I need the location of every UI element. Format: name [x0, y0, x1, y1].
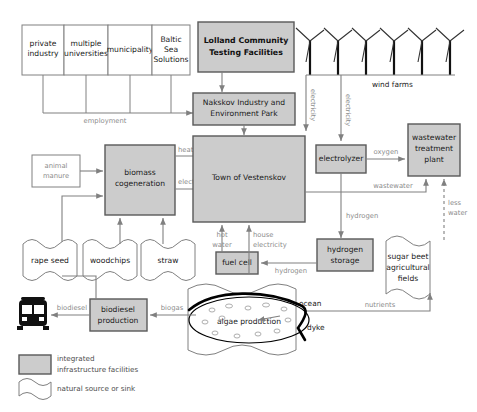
- stakeholder-label-private-industry-1: private: [30, 39, 57, 48]
- legend: integrated infrastructure facilities nat…: [19, 354, 138, 400]
- node-label-biodiesel-2: production: [98, 316, 139, 325]
- stakeholder-label-private-industry-2: industry: [27, 49, 59, 58]
- node-label-biomass-1: biomass: [124, 168, 156, 177]
- flow-electricity-wind-1: electricity: [306, 75, 317, 131]
- node-label-wind-farms: wind farms: [372, 80, 413, 89]
- node-lolland-community-testing-facilities[interactable]: [198, 22, 294, 72]
- flow-label-electricity-wind-2: electricity: [344, 94, 352, 126]
- node-label-straw: straw: [158, 256, 179, 265]
- node-rape-seed[interactable]: rape seed: [23, 240, 77, 281]
- node-biodiesel-production[interactable]: [90, 299, 147, 331]
- flow-wastewater: wastewater: [305, 179, 426, 192]
- flow-label-house-electricity-2: electricity: [253, 241, 287, 249]
- node-straw[interactable]: straw: [141, 240, 195, 281]
- node-label-fuel-cell: fuel cell: [222, 258, 252, 267]
- stakeholder-label-baltic-1: Baltic: [160, 35, 181, 44]
- flow-label-wastewater: wastewater: [373, 182, 413, 190]
- flow-label-house-electricity-1: house: [253, 231, 274, 239]
- node-label-electrolyzer: electrolyzer: [319, 154, 364, 163]
- legend-label-integrated-1: integrated: [57, 354, 95, 363]
- node-label-hydrogen-storage-1: hydrogen: [327, 245, 363, 254]
- node-label-algae-production: algae production: [217, 317, 281, 326]
- node-label-rape-seed: rape seed: [31, 256, 69, 265]
- flow-label-electricity-wind-1: electricity: [309, 89, 317, 121]
- node-label-animal-manure-2: manure: [43, 172, 69, 180]
- node-label-lolland-1: Lolland Community: [204, 36, 289, 45]
- node-sugar-beet-fields[interactable]: sugar beet agricultural fields: [386, 236, 430, 299]
- node-label-sugar-beet-3: fields: [398, 274, 418, 283]
- node-label-animal-manure-1: animal: [44, 162, 67, 170]
- wind-turbine-icon-1: [296, 28, 324, 75]
- stakeholder-label-universities-2: universities: [64, 49, 108, 58]
- flow-oxygen: oxygen: [366, 148, 405, 159]
- node-label-nakskov-2: Environment Park: [210, 109, 278, 118]
- node-wind-farms[interactable]: wind farms: [296, 28, 464, 89]
- legend-swatch-integrated: [19, 355, 51, 374]
- node-label-lolland-2: Testing Facilities: [209, 48, 283, 57]
- flow-label-oxygen: oxygen: [374, 148, 399, 156]
- legend-label-natural: natural source or sink: [57, 384, 136, 393]
- stakeholder-label-baltic-2: Sea: [164, 45, 178, 54]
- flow-hydrogen-fuelcell: hydrogen: [261, 263, 317, 275]
- flow-label-hot-water-1: hot: [216, 231, 227, 239]
- legend-swatch-natural: [19, 379, 51, 400]
- flow-biodiesel-out: biodiesel: [51, 304, 90, 315]
- node-label-sugar-beet-1: sugar beet: [388, 252, 429, 261]
- flow-label-less-water-2: water: [448, 209, 468, 217]
- node-label-wastewater-2: treatment: [415, 144, 453, 153]
- stakeholder-label-universities-1: multiple: [70, 39, 101, 48]
- node-hydrogen-storage[interactable]: [317, 239, 373, 271]
- flow-label-heat: heat: [178, 146, 194, 154]
- node-label-biomass-2: cogeneration: [115, 179, 165, 188]
- node-label-hydrogen-storage-2: storage: [331, 256, 360, 265]
- node-label-nakskov-1: Nakskov Industry and: [203, 98, 285, 107]
- node-label-town: Town of Vestenskov: [211, 173, 287, 182]
- wind-turbine-icon-2: [324, 28, 352, 75]
- flow-label-hydrogen-fuelcell: hydrogen: [275, 267, 307, 275]
- node-woodchips[interactable]: woodchips: [83, 240, 137, 281]
- flow-label-nutrients: nutrients: [365, 301, 396, 309]
- node-label-dyke: dyke: [307, 323, 325, 332]
- flow-label-biodiesel: biodiesel: [57, 304, 87, 312]
- infrastructure-flow-diagram: private industry multiple universities m…: [0, 0, 477, 412]
- legend-label-integrated-2: infrastructure facilities: [57, 365, 138, 374]
- stakeholder-group: private industry multiple universities m…: [22, 25, 190, 75]
- flow-label-hot-water-2: water: [212, 241, 232, 249]
- wind-turbine-icon-3: [352, 28, 380, 75]
- wind-turbine-icon-5: [408, 28, 436, 75]
- node-label-wastewater-3: plant: [424, 155, 443, 164]
- node-label-biodiesel-1: biodiesel: [101, 305, 135, 314]
- stakeholder-label-baltic-3: Solutions: [154, 55, 189, 64]
- flow-label-employment: employment: [84, 117, 127, 125]
- node-label-woodchips: woodchips: [90, 256, 130, 265]
- flow-label-less-water-1: less: [448, 199, 462, 207]
- node-label-sugar-beet-2: agricultural: [386, 263, 429, 272]
- flow-label-biogas: biogas: [161, 304, 184, 312]
- node-label-wastewater-1: wastewater: [412, 133, 457, 142]
- flow-hot-water: hot water: [212, 225, 232, 252]
- flow-electricity-wind-2: electricity: [341, 75, 352, 141]
- flow-label-hydrogen-electrolyzer: hydrogen: [346, 212, 378, 220]
- bus-icon: [17, 297, 49, 330]
- wind-turbine-icon-4: [380, 28, 408, 75]
- flow-employment: employment: [43, 75, 193, 125]
- stakeholder-label-municipality: municipality: [107, 45, 154, 54]
- flow-less-water: less water: [444, 179, 468, 240]
- diagram-canvas: private industry multiple universities m…: [0, 0, 477, 412]
- wind-turbine-icon-6: [436, 28, 464, 75]
